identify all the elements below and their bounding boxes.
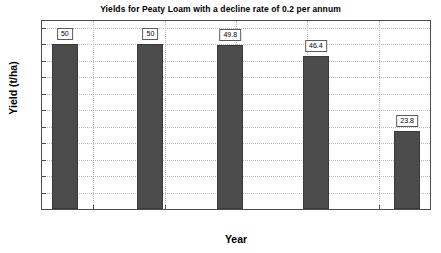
bar xyxy=(394,131,420,209)
bar xyxy=(137,44,163,209)
plot-area: 0510152025303540455055200520102015202020… xyxy=(41,20,431,210)
y-tick-mark xyxy=(42,160,46,161)
gridline-vertical xyxy=(165,21,166,209)
bar-value-label: 23.8 xyxy=(396,115,418,127)
y-tick-label: 45 xyxy=(41,55,42,67)
y-tick-label: 35 xyxy=(41,88,42,100)
bar-value-label: 50 xyxy=(143,28,159,40)
y-tick-mark xyxy=(42,193,46,194)
y-tick-label: 20 xyxy=(41,137,42,149)
y-tick-mark xyxy=(42,143,46,144)
y-tick-mark xyxy=(42,28,46,29)
y-tick-label: 5 xyxy=(41,187,42,199)
x-tick-label: 2005 xyxy=(82,209,105,210)
y-tick-mark xyxy=(42,127,46,128)
gridline-vertical xyxy=(93,21,94,209)
x-tick-label: 2015 xyxy=(224,209,247,210)
y-tick-label: 50 xyxy=(41,38,42,50)
y-tick-label: 30 xyxy=(41,104,42,116)
x-tick-label: 2020 xyxy=(296,209,319,210)
bar-value-label: 49.8 xyxy=(219,29,241,41)
y-tick-label: 10 xyxy=(41,170,42,182)
y-tick-mark xyxy=(42,110,46,111)
y-tick-mark xyxy=(42,209,46,210)
y-axis-label: Yield (t/ha) xyxy=(7,43,19,133)
bar xyxy=(303,56,329,209)
gridline-vertical xyxy=(379,21,380,209)
y-tick-mark xyxy=(42,77,46,78)
y-tick-mark xyxy=(42,94,46,95)
x-tick-label: 2010 xyxy=(153,209,176,210)
y-tick-label: 40 xyxy=(41,71,42,83)
chart-title: Yields for Peaty Loam with a decline rat… xyxy=(0,4,441,14)
bar-value-label: 46.4 xyxy=(305,40,327,52)
y-tick-mark xyxy=(42,44,46,45)
y-tick-label: 0 xyxy=(41,203,42,210)
y-tick-label: 25 xyxy=(41,121,42,133)
bar-value-label: 50 xyxy=(57,28,73,40)
x-tick-label: 2025 xyxy=(367,209,390,210)
bar-chart: Yields for Peaty Loam with a decline rat… xyxy=(0,0,441,253)
y-tick-label: 15 xyxy=(41,154,42,166)
x-axis-label: Year xyxy=(36,233,436,245)
y-tick-mark xyxy=(42,61,46,62)
bar xyxy=(217,45,243,209)
y-tick-mark xyxy=(42,176,46,177)
y-tick-label: 55 xyxy=(41,22,42,34)
bar xyxy=(52,44,78,209)
